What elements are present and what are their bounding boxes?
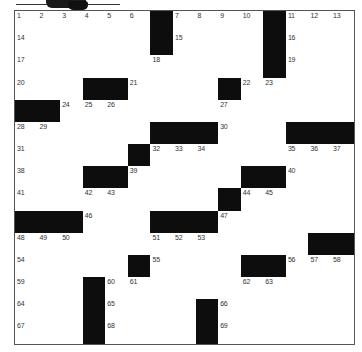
grid-cell[interactable] xyxy=(241,122,265,145)
grid-cell[interactable] xyxy=(308,33,332,56)
grid-cell[interactable] xyxy=(263,100,287,123)
grid-cell[interactable] xyxy=(286,299,310,322)
grid-cell[interactable] xyxy=(308,321,332,343)
grid-cell[interactable] xyxy=(173,78,197,101)
grid-cell[interactable] xyxy=(38,188,62,211)
grid-cell[interactable] xyxy=(308,55,332,78)
grid-cell[interactable]: 16 xyxy=(286,33,310,56)
grid-cell[interactable] xyxy=(263,321,287,343)
grid-cell[interactable] xyxy=(173,188,197,211)
grid-cell[interactable] xyxy=(331,188,354,211)
grid-cell[interactable]: 53 xyxy=(196,233,220,256)
grid-cell[interactable] xyxy=(173,299,197,322)
grid-cell[interactable] xyxy=(218,166,242,189)
grid-cell[interactable] xyxy=(38,166,62,189)
grid-cell[interactable] xyxy=(60,33,84,56)
grid-cell[interactable]: 49 xyxy=(38,233,62,256)
grid-cell[interactable] xyxy=(60,78,84,101)
grid-cell[interactable] xyxy=(128,55,152,78)
grid-cell[interactable]: 51 xyxy=(150,233,174,256)
grid-cell[interactable] xyxy=(308,188,332,211)
grid-cell[interactable] xyxy=(60,144,84,167)
grid-cell[interactable]: 27 xyxy=(218,100,242,123)
grid-cell[interactable]: 46 xyxy=(83,211,107,234)
grid-cell[interactable]: 5 xyxy=(105,11,129,34)
grid-cell[interactable]: 56 xyxy=(286,255,310,278)
grid-cell[interactable] xyxy=(128,122,152,145)
grid-cell[interactable] xyxy=(286,277,310,300)
grid-cell[interactable]: 45 xyxy=(263,188,287,211)
grid-cell[interactable] xyxy=(83,33,107,56)
grid-cell[interactable]: 1 xyxy=(15,11,39,34)
grid-cell[interactable] xyxy=(196,55,220,78)
grid-cell[interactable] xyxy=(331,211,354,234)
grid-cell[interactable]: 44 xyxy=(241,188,265,211)
grid-cell[interactable] xyxy=(263,299,287,322)
grid-cell[interactable] xyxy=(83,122,107,145)
grid-cell[interactable]: 58 xyxy=(331,255,354,278)
grid-cell[interactable]: 17 xyxy=(15,55,39,78)
grid-cell[interactable] xyxy=(218,233,242,256)
grid-cell[interactable]: 32 xyxy=(150,144,174,167)
grid-cell[interactable] xyxy=(331,78,354,101)
grid-cell[interactable] xyxy=(60,255,84,278)
grid-cell[interactable]: 65 xyxy=(105,299,129,322)
grid-cell[interactable] xyxy=(173,55,197,78)
grid-cell[interactable] xyxy=(150,188,174,211)
grid-cell[interactable]: 31 xyxy=(15,144,39,167)
grid-cell[interactable]: 68 xyxy=(105,321,129,343)
grid-cell[interactable]: 7 xyxy=(173,11,197,34)
grid-cell[interactable] xyxy=(218,144,242,167)
grid-cell[interactable]: 15 xyxy=(173,33,197,56)
grid-cell[interactable]: 57 xyxy=(308,255,332,278)
grid-cell[interactable] xyxy=(286,78,310,101)
grid-cell[interactable] xyxy=(286,321,310,343)
grid-cell[interactable] xyxy=(218,255,242,278)
grid-cell[interactable] xyxy=(331,55,354,78)
grid-cell[interactable]: 25 xyxy=(83,100,107,123)
grid-cell[interactable] xyxy=(150,166,174,189)
grid-cell[interactable] xyxy=(331,277,354,300)
grid-cell[interactable] xyxy=(241,299,265,322)
grid-cell[interactable] xyxy=(38,144,62,167)
grid-cell[interactable] xyxy=(173,255,197,278)
grid-cell[interactable]: 60 xyxy=(105,277,129,300)
grid-cell[interactable] xyxy=(83,255,107,278)
grid-cell[interactable]: 62 xyxy=(241,277,265,300)
grid-cell[interactable]: 54 xyxy=(15,255,39,278)
grid-cell[interactable]: 13 xyxy=(331,11,354,34)
grid-cell[interactable]: 48 xyxy=(15,233,39,256)
grid-cell[interactable] xyxy=(38,321,62,343)
grid-cell[interactable] xyxy=(263,211,287,234)
grid-cell[interactable] xyxy=(83,55,107,78)
grid-cell[interactable]: 67 xyxy=(15,321,39,343)
grid-cell[interactable] xyxy=(60,299,84,322)
grid-cell[interactable] xyxy=(150,321,174,343)
grid-cell[interactable] xyxy=(60,55,84,78)
grid-cell[interactable] xyxy=(241,100,265,123)
grid-cell[interactable] xyxy=(60,122,84,145)
grid-cell[interactable] xyxy=(105,55,129,78)
grid-cell[interactable] xyxy=(308,211,332,234)
grid-cell[interactable]: 14 xyxy=(15,33,39,56)
grid-cell[interactable] xyxy=(105,211,129,234)
grid-cell[interactable]: 24 xyxy=(60,100,84,123)
grid-cell[interactable] xyxy=(60,188,84,211)
grid-cell[interactable] xyxy=(150,78,174,101)
grid-cell[interactable] xyxy=(83,233,107,256)
grid-cell[interactable] xyxy=(263,122,287,145)
grid-cell[interactable] xyxy=(308,78,332,101)
grid-cell[interactable] xyxy=(38,277,62,300)
grid-cell[interactable] xyxy=(308,277,332,300)
grid-cell[interactable] xyxy=(128,233,152,256)
grid-cell[interactable] xyxy=(60,321,84,343)
grid-cell[interactable] xyxy=(286,233,310,256)
grid-cell[interactable]: 3 xyxy=(60,11,84,34)
grid-cell[interactable] xyxy=(308,166,332,189)
grid-cell[interactable] xyxy=(83,144,107,167)
grid-cell[interactable] xyxy=(38,299,62,322)
grid-cell[interactable] xyxy=(128,33,152,56)
grid-cell[interactable]: 12 xyxy=(308,11,332,34)
grid-cell[interactable] xyxy=(173,277,197,300)
grid-cell[interactable]: 41 xyxy=(15,188,39,211)
